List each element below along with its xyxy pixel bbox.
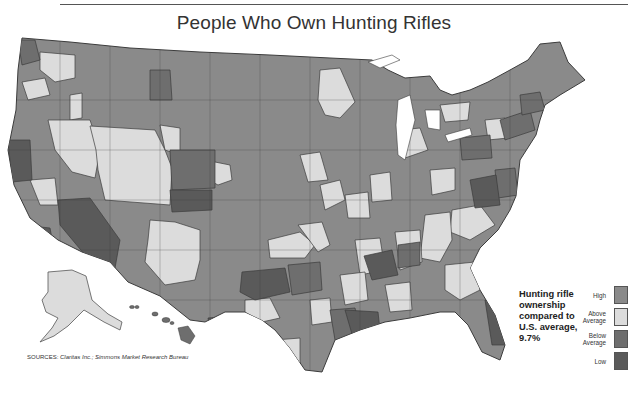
region-below-average [398,242,420,268]
legend-swatch [614,308,628,326]
region-low [22,225,55,258]
legend-swatch [614,286,628,304]
legend-label: High [566,292,606,299]
alaska [40,270,122,342]
legend-label: Low [566,358,606,365]
legend-item-below-average: BelowAverage [578,330,628,350]
region-low [208,315,258,355]
sources-credit: SOURCES: Claritas Inc.; Simmons Market R… [27,354,188,360]
legend-swatch [614,352,628,370]
region-below-average [170,150,215,190]
region-below-average [460,135,492,160]
region-above-average [310,298,332,325]
region-above-average [345,192,370,218]
legend-item-above-average: AboveAverage [578,308,628,328]
legend-item-high: High [578,286,628,306]
region-below-average [288,262,322,295]
region-above-average [385,282,412,312]
legend-item-low: Low [578,352,628,372]
legend-swatch [614,330,628,348]
sources-label: SOURCES: [27,354,58,360]
legend-label: AboveAverage [566,310,606,324]
region-above-average [430,168,455,195]
region-low [470,175,500,208]
legend-label: BelowAverage [566,332,606,346]
region-above-average [370,172,392,202]
region-above-average [440,102,470,122]
region-above-average [275,338,300,368]
region-below-average [150,70,172,100]
region-low [8,140,32,182]
sources-text: Claritas Inc.; Simmons Market Research B… [60,354,188,360]
region-above-average [70,93,82,120]
region-low [170,190,212,212]
